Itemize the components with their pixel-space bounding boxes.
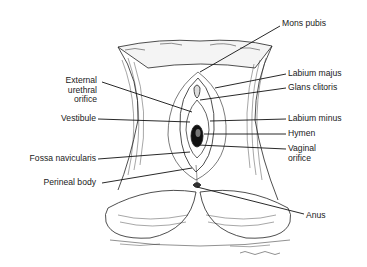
label-perineal-body: Perineal body <box>10 178 96 188</box>
label-external-urethral-orifice: External urethral orifice <box>25 76 97 105</box>
leader-perineal-body <box>102 168 192 183</box>
label-vestibule: Vestibule <box>25 114 96 124</box>
leader-fossa-navicularis <box>98 152 190 159</box>
label-mons-pubis: Mons pubis <box>282 19 326 29</box>
leader-anus <box>197 187 304 214</box>
anatomy-diagram: External urethral orifice Vestibule Foss… <box>0 0 367 267</box>
leader-labium-majus <box>215 74 286 88</box>
leader-external-urethral-orifice <box>102 82 192 112</box>
label-labium-majus: Labium majus <box>288 69 342 79</box>
label-hymen: Hymen <box>288 129 315 139</box>
leader-glans-clitoris <box>200 88 286 100</box>
label-vaginal-orifice: Vaginal orifice <box>288 144 316 163</box>
label-fossa-navicularis: Fossa navicularis <box>4 154 96 164</box>
leader-labium-minus <box>210 119 286 121</box>
label-glans-clitoris: Glans clitoris <box>288 83 337 93</box>
label-labium-minus: Labium minus <box>288 114 342 124</box>
label-anus: Anus <box>306 211 326 221</box>
